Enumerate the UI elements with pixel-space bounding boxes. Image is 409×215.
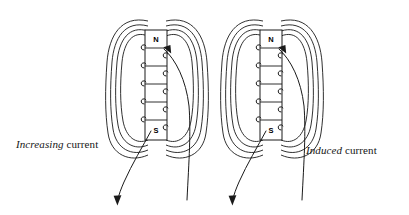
current-arrowhead-left — [114, 195, 122, 205]
north-pole-label-right: N — [268, 35, 273, 44]
caption-induced-rest: current — [342, 144, 377, 156]
south-pole-label-left: S — [153, 126, 158, 135]
caption-increasing-rest: current — [64, 138, 99, 150]
bar-magnet-core-left — [145, 30, 167, 140]
caption-increasing-current: Increasing current — [16, 138, 98, 150]
caption-induced-emphasis: Induced — [306, 144, 342, 156]
north-pole-label-left: N — [153, 35, 158, 44]
field-lines-left-side-left — [106, 20, 148, 158]
field-lines-right-side-right — [281, 20, 323, 158]
south-pole-label-right: S — [268, 126, 273, 135]
electromagnet-figure: N S — [0, 0, 409, 215]
caption-increasing-emphasis: Increasing — [16, 138, 64, 150]
lead-wire-arrow-right-diagram — [233, 131, 266, 199]
bar-magnet-core-right — [260, 30, 282, 140]
caption-induced-current: Induced current — [306, 144, 377, 156]
figure-canvas: N S — [0, 0, 409, 215]
field-lines-right-side-left — [221, 20, 263, 158]
field-lines-left-side-right — [166, 20, 208, 158]
diagram-left: N S — [106, 20, 209, 206]
lead-wire-arrow-left-diagram — [118, 131, 151, 199]
diagram-right: N S — [221, 20, 324, 206]
current-arrowhead-right — [229, 195, 237, 205]
